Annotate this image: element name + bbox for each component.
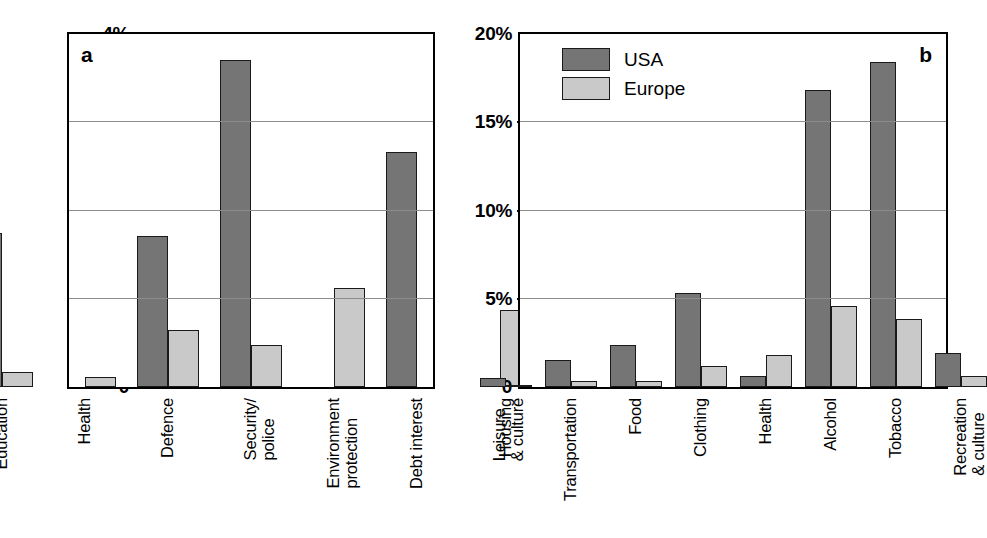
category-label: Health bbox=[757, 398, 775, 445]
legend-label: Europe bbox=[624, 79, 685, 98]
y-axis-tick-label: 15% bbox=[475, 111, 512, 133]
bar-usa bbox=[935, 353, 961, 387]
gridline bbox=[520, 210, 946, 211]
bar-usa bbox=[675, 293, 701, 387]
bar-europe bbox=[334, 288, 365, 387]
bar-usa bbox=[545, 360, 571, 387]
bar-group-panel-a bbox=[69, 34, 433, 387]
panel-a: 01%2%3%4% a EducationHealthDefenceSecuri… bbox=[0, 0, 462, 538]
category-label: Housing bbox=[497, 398, 515, 457]
gridline bbox=[69, 210, 433, 211]
category-label: Food bbox=[627, 398, 645, 435]
category-label: Environment protection bbox=[325, 398, 361, 488]
bar-usa bbox=[220, 60, 251, 387]
panel-b: 05%10%15%20% b USAEurope HousingTranspor… bbox=[462, 0, 984, 538]
bar-usa bbox=[0, 233, 2, 387]
gridline bbox=[69, 121, 433, 122]
legend: USAEurope bbox=[562, 48, 685, 100]
bar-europe bbox=[2, 372, 33, 387]
gridline bbox=[520, 298, 946, 299]
gridline bbox=[520, 121, 946, 122]
bar-europe bbox=[896, 319, 922, 387]
bar-europe bbox=[251, 345, 282, 387]
bar-europe bbox=[506, 385, 532, 387]
bar-usa bbox=[610, 345, 636, 387]
category-label: Health bbox=[76, 398, 94, 445]
legend-item-usa: USA bbox=[562, 48, 685, 71]
bar-europe bbox=[961, 376, 987, 387]
y-axis-tick-label: 10% bbox=[475, 200, 512, 222]
bar-europe bbox=[85, 377, 116, 387]
y-axis-tick-label: 20% bbox=[475, 23, 512, 45]
bar-usa bbox=[870, 62, 896, 387]
category-label: Recreation & culture bbox=[952, 398, 987, 476]
bar-europe bbox=[831, 306, 857, 387]
bar-usa bbox=[740, 376, 766, 387]
plot-area-panel-a: a bbox=[67, 32, 435, 389]
category-label: Tobacco bbox=[887, 398, 905, 458]
bar-europe bbox=[571, 381, 597, 387]
legend-swatch-usa bbox=[562, 48, 610, 71]
plot-area-panel-b: b USAEurope bbox=[518, 32, 948, 389]
legend-label: USA bbox=[624, 50, 663, 69]
category-label: Alcohol bbox=[822, 398, 840, 451]
category-label: Defence bbox=[159, 398, 177, 458]
category-label: Education bbox=[0, 398, 11, 470]
bar-usa bbox=[386, 152, 417, 387]
category-label: Transportation bbox=[562, 398, 580, 501]
bar-europe bbox=[636, 381, 662, 387]
bar-usa bbox=[480, 378, 506, 387]
category-label: Debt interest bbox=[408, 398, 426, 489]
bar-europe bbox=[766, 355, 792, 387]
legend-swatch-europe bbox=[562, 77, 610, 100]
gridline bbox=[69, 298, 433, 299]
bar-europe bbox=[701, 366, 727, 387]
bar-usa bbox=[137, 236, 168, 387]
category-label: Security/ police bbox=[242, 398, 278, 460]
y-axis-panel-b: 05%10%15%20% bbox=[462, 0, 512, 538]
legend-item-europe: Europe bbox=[562, 77, 685, 100]
y-axis-tick-label: 5% bbox=[485, 288, 512, 310]
bar-usa bbox=[805, 90, 831, 387]
category-label: Clothing bbox=[692, 398, 710, 457]
bar-europe bbox=[168, 330, 199, 387]
